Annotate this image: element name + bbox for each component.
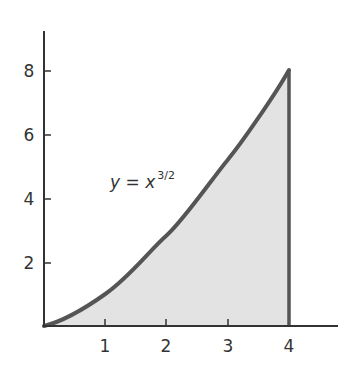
y-tick-label-8: 8: [24, 61, 35, 81]
area-under-curve-diagram: 8 6 4 2 1 2 3 4 y = x3/2: [0, 0, 355, 367]
x-tick-label-3: 3: [223, 336, 234, 356]
y-tick-label-2: 2: [24, 253, 35, 273]
eq-exponent: 3/2: [157, 169, 175, 182]
y-tick-label-6: 6: [24, 125, 35, 145]
x-tick-label-2: 2: [161, 336, 172, 356]
x-tick-label-4: 4: [284, 336, 295, 356]
eq-equals: =: [120, 172, 145, 192]
eq-x: x: [144, 172, 156, 192]
shaded-region: [44, 70, 289, 326]
x-tick-label-1: 1: [100, 336, 111, 356]
y-ticks: [44, 71, 51, 263]
y-tick-label-4: 4: [24, 189, 35, 209]
function-label: y = x3/2: [109, 169, 175, 192]
